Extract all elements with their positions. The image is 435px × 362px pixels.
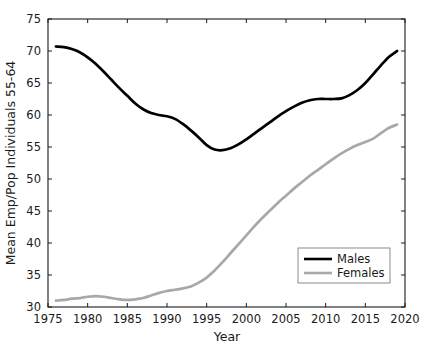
y-tick-label: 30 (26, 300, 41, 314)
legend-label-males: Males (337, 252, 370, 266)
x-tick-label: 1975 (33, 312, 62, 326)
y-tick-label: 65 (26, 76, 41, 90)
y-tick-label: 40 (26, 236, 41, 250)
x-tick-label: 2020 (390, 312, 419, 326)
y-tick-label: 75 (26, 12, 41, 26)
x-tick-label: 2005 (271, 312, 300, 326)
x-tick-label: 2015 (351, 312, 380, 326)
y-tick-label: 45 (26, 204, 41, 218)
chart-background (0, 0, 435, 362)
legend-label-females: Females (337, 266, 385, 280)
x-tick-label: 1995 (192, 312, 221, 326)
y-tick-label: 50 (26, 172, 41, 186)
y-tick-label: 55 (26, 140, 41, 154)
x-tick-label: 2010 (311, 312, 340, 326)
chart-legend: Males Females (298, 248, 390, 283)
x-tick-label: 2000 (232, 312, 261, 326)
chart-figure: 1975198019851990199520002005201020152020… (0, 0, 435, 362)
y-tick-label: 70 (26, 44, 41, 58)
x-axis-title: Year (213, 329, 241, 344)
y-tick-label: 35 (26, 268, 41, 282)
x-tick-label: 1980 (73, 312, 102, 326)
line-chart: 1975198019851990199520002005201020152020… (0, 0, 435, 362)
x-tick-label: 1985 (113, 312, 142, 326)
y-tick-label: 60 (26, 108, 41, 122)
y-axis-title: Mean Emp/Pop Individuals 55-64 (3, 61, 18, 266)
x-tick-label: 1990 (152, 312, 181, 326)
